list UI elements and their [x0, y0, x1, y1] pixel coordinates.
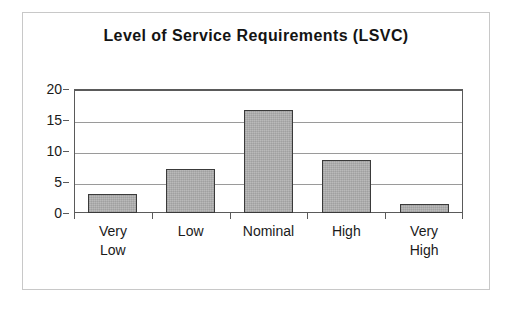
x-tick [74, 213, 75, 219]
bar [244, 110, 293, 213]
bar [400, 204, 449, 213]
y-tick-label-15: 15 [46, 112, 62, 128]
x-tick [307, 213, 308, 219]
y-tick-label-10: 10 [46, 143, 62, 159]
bar [166, 169, 215, 213]
x-tick [230, 213, 231, 219]
y-tick-mark-20 [63, 89, 69, 90]
bar [88, 194, 137, 213]
x-axis-label: Very High [385, 222, 463, 260]
x-tick [152, 213, 153, 219]
x-axis-labels: Very LowLowNominalHighVery High [74, 222, 463, 282]
x-axis-label: Low [152, 222, 230, 241]
y-tick-label-20: 20 [46, 81, 62, 97]
y-tick-mark-5 [63, 182, 69, 183]
y-axis: 05101520 [23, 89, 69, 213]
x-axis-label: Very Low [74, 222, 152, 260]
y-tick-mark-15 [63, 120, 69, 121]
x-axis-label: High [307, 222, 385, 241]
y-tick-label-0: 0 [54, 205, 62, 221]
chart-title: Level of Service Requirements (LSVC) [23, 27, 489, 45]
bar-series [74, 89, 463, 213]
x-axis-label: Nominal [230, 222, 308, 241]
chart-frame: Level of Service Requirements (LSVC) 051… [22, 12, 490, 290]
y-tick-mark-10 [63, 151, 69, 152]
x-tick [462, 213, 463, 219]
x-tick [385, 213, 386, 219]
y-tick-label-5: 5 [54, 174, 62, 190]
x-axis-ticks [74, 213, 463, 219]
bar [322, 160, 371, 213]
y-tick-mark-0 [63, 213, 69, 214]
